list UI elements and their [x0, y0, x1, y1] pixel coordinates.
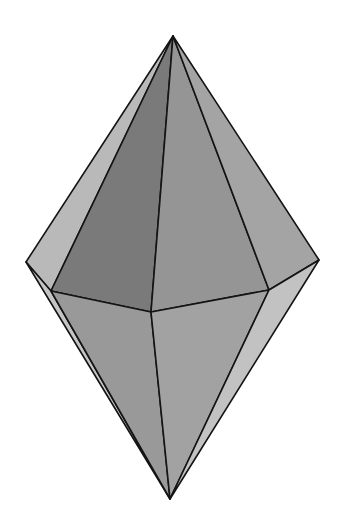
figure-canvas [0, 0, 342, 527]
hexagonal-bipyramid-illustration [0, 0, 342, 527]
face-lower-front-right [151, 290, 269, 499]
crystal-faces [26, 36, 319, 499]
